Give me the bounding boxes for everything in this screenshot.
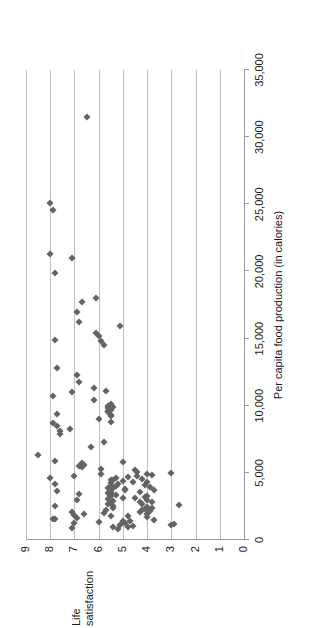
gridline [50, 70, 51, 540]
y-axis-tick-labels: 0123456789 [26, 546, 244, 570]
y-tick-label-slot: 8 [44, 546, 56, 570]
x-tick-mark [245, 539, 249, 540]
y-tick-label-slot: 9 [20, 546, 32, 570]
y-tick-label-slot: 0 [238, 546, 250, 570]
x-tick-label: 30,000 [252, 107, 266, 167]
y-tick-label-slot: 1 [214, 546, 226, 570]
y-tick-label-slot: 2 [190, 546, 202, 570]
y-tick-label: 3 [165, 546, 176, 570]
y-tick-label: 2 [190, 546, 201, 570]
y-axis-title-line-1: Life [70, 572, 83, 626]
y-tick-label: 6 [93, 546, 104, 570]
rotated-figure-wrapper: 0123456789 05,00010,00015,00020,00025,00… [0, 0, 316, 628]
x-axis-tick-labels: 05,00010,00015,00020,00025,00030,00035,0… [252, 70, 268, 540]
gridline [147, 70, 148, 540]
y-tick-label-slot: 4 [141, 546, 153, 570]
x-tick-mark [245, 405, 249, 406]
x-tick-label: 5,000 [252, 443, 266, 503]
x-tick-label: 10,000 [252, 376, 266, 436]
gridline [123, 70, 124, 540]
x-tick-label: 15,000 [252, 309, 266, 369]
gridline [220, 70, 221, 540]
y-tick-label: 1 [214, 546, 225, 570]
x-tick-mark [245, 136, 249, 137]
x-axis-line [244, 69, 245, 540]
y-axis-line [26, 539, 245, 540]
y-tick-label: 8 [44, 546, 55, 570]
y-tick-label: 9 [20, 546, 31, 570]
gridline [26, 70, 27, 540]
x-tick-mark [245, 270, 249, 271]
y-axis-title: Life satisfaction [70, 572, 96, 626]
y-tick-label: 5 [117, 546, 128, 570]
x-tick-label: 25,000 [252, 174, 266, 234]
x-tick-label: 20,000 [252, 241, 266, 301]
y-tick-label: 0 [238, 546, 249, 570]
plot-area [26, 70, 244, 540]
x-axis-title: Per capita food production (in calories) [272, 70, 285, 540]
y-tick-label-slot: 6 [93, 546, 105, 570]
x-tick-label: 0 [252, 510, 266, 570]
x-tick-mark [245, 472, 249, 473]
y-tick-label-slot: 3 [165, 546, 177, 570]
x-tick-mark [245, 69, 249, 70]
gridline [196, 70, 197, 540]
gridline [74, 70, 75, 540]
y-axis-title-line-2: satisfaction [83, 572, 96, 626]
y-tick-label: 4 [141, 546, 152, 570]
y-tick-label-slot: 5 [117, 546, 129, 570]
x-tick-mark [245, 338, 249, 339]
chart-figure: 0123456789 05,00010,00015,00020,00025,00… [0, 0, 316, 628]
x-tick-label: 35,000 [252, 40, 266, 100]
y-tick-label: 7 [68, 546, 79, 570]
y-tick-label-slot: 7 [68, 546, 80, 570]
x-tick-mark [245, 203, 249, 204]
